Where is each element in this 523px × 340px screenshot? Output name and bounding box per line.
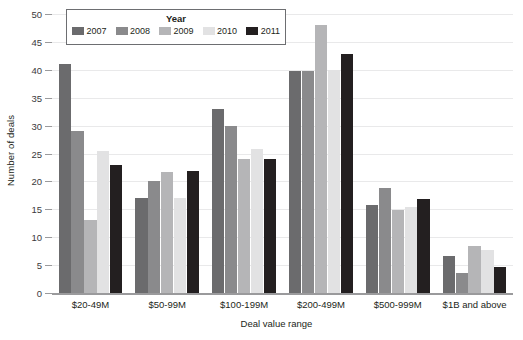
bar bbox=[315, 25, 327, 293]
legend-item[interactable]: 2009 bbox=[159, 26, 194, 36]
bar bbox=[97, 151, 109, 293]
y-axis-tick-label: 25 bbox=[31, 148, 42, 159]
y-axis-tick-label: 35 bbox=[31, 92, 42, 103]
bar bbox=[174, 198, 186, 293]
bar bbox=[443, 256, 455, 293]
legend-swatch bbox=[159, 27, 171, 35]
legend-item[interactable]: 2010 bbox=[203, 26, 238, 36]
bar bbox=[366, 205, 378, 293]
bar bbox=[135, 198, 147, 293]
x-axis-line bbox=[52, 293, 513, 295]
x-axis-tick-label: $500-999M bbox=[374, 299, 422, 310]
y-axis-tick-label: 10 bbox=[31, 232, 42, 243]
x-axis-tick-label: $20-49M bbox=[72, 299, 110, 310]
legend-label: 2008 bbox=[130, 26, 150, 36]
y-axis-title-text: Number of deals bbox=[6, 114, 17, 185]
x-axis-title: Deal value range bbox=[0, 318, 523, 329]
bar bbox=[392, 210, 404, 293]
y-axis-tick-mark bbox=[45, 126, 52, 127]
legend-title: Year bbox=[67, 13, 285, 24]
y-axis-tick-mark bbox=[45, 14, 52, 15]
legend-swatch bbox=[116, 27, 128, 35]
bar-group bbox=[52, 14, 129, 293]
y-axis-tick-mark bbox=[45, 42, 52, 43]
bar bbox=[187, 171, 199, 293]
y-axis-tick-label: 45 bbox=[31, 36, 42, 47]
y-axis-title: Number of deals bbox=[0, 0, 22, 300]
bar bbox=[417, 199, 429, 293]
bar bbox=[161, 172, 173, 293]
y-axis-tick-mark bbox=[45, 293, 52, 294]
y-axis-tick-label: 0 bbox=[37, 288, 42, 299]
bar bbox=[456, 273, 468, 293]
legend-item[interactable]: 2007 bbox=[72, 26, 107, 36]
legend-items: 20072008200920102011 bbox=[67, 26, 285, 36]
x-axis-tick-label: $200-499M bbox=[297, 299, 345, 310]
bar bbox=[84, 220, 96, 293]
y-axis-tick-mark bbox=[45, 70, 52, 71]
y-axis-tick-label: 15 bbox=[31, 204, 42, 215]
y-axis-tick-label: 30 bbox=[31, 120, 42, 131]
bar bbox=[71, 131, 83, 293]
bar bbox=[148, 181, 160, 293]
bar bbox=[481, 250, 493, 293]
y-axis-tick-labels: 05101520253035404550 bbox=[20, 0, 42, 340]
y-axis-tick-label: 40 bbox=[31, 64, 42, 75]
y-axis-tick-mark bbox=[45, 237, 52, 238]
x-axis-tick-label: $100-199M bbox=[220, 299, 268, 310]
x-axis-tick-label: $1B and above bbox=[443, 299, 507, 310]
bar-group bbox=[283, 14, 360, 293]
legend-label: 2009 bbox=[174, 26, 194, 36]
bar-chart: Number of deals 05101520253035404550 $20… bbox=[0, 0, 523, 340]
bar bbox=[289, 71, 301, 293]
y-axis-tick-mark bbox=[45, 98, 52, 99]
y-axis-tick-label: 20 bbox=[31, 176, 42, 187]
bar bbox=[468, 246, 480, 293]
legend-swatch bbox=[72, 27, 84, 35]
legend-item[interactable]: 2008 bbox=[116, 26, 151, 36]
bar bbox=[379, 188, 391, 293]
bar bbox=[494, 267, 506, 293]
y-axis-tick-mark bbox=[45, 265, 52, 266]
bar bbox=[264, 159, 276, 293]
legend-label: 2011 bbox=[261, 26, 280, 36]
legend-label: 2010 bbox=[217, 26, 237, 36]
legend-item[interactable]: 2011 bbox=[246, 26, 280, 36]
x-axis-tick-label: $50-99M bbox=[149, 299, 187, 310]
y-axis-tick-mark bbox=[45, 154, 52, 155]
bar bbox=[110, 165, 122, 293]
bar bbox=[341, 54, 353, 293]
y-axis-tick-label: 5 bbox=[37, 260, 42, 271]
legend-swatch bbox=[203, 27, 215, 35]
bar-group bbox=[129, 14, 206, 293]
bar-group bbox=[436, 14, 513, 293]
plot-area bbox=[52, 14, 513, 293]
bar bbox=[251, 149, 263, 293]
bar bbox=[212, 109, 224, 293]
legend-swatch bbox=[246, 27, 258, 35]
bar-group bbox=[359, 14, 436, 293]
x-axis-title-text: Deal value range bbox=[211, 318, 313, 329]
legend: Year 20072008200920102011 bbox=[66, 9, 286, 45]
bar bbox=[59, 64, 71, 293]
bar bbox=[302, 71, 314, 293]
y-axis-tick-label: 50 bbox=[31, 9, 42, 20]
bar-group bbox=[206, 14, 283, 293]
y-axis-tick-mark bbox=[45, 209, 52, 210]
bar bbox=[328, 70, 340, 293]
y-axis-tick-mark bbox=[45, 181, 52, 182]
bar bbox=[225, 126, 237, 293]
bar bbox=[405, 207, 417, 293]
legend-label: 2007 bbox=[87, 26, 107, 36]
bar bbox=[238, 159, 250, 293]
